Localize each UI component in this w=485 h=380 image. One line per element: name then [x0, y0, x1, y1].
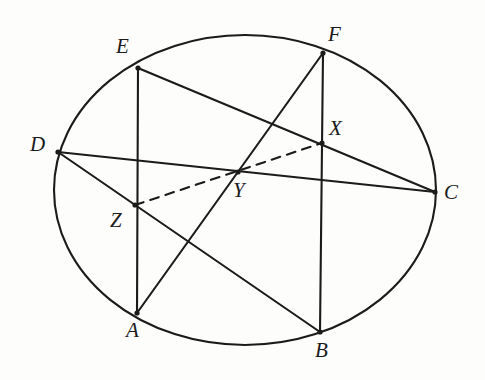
chord-E-C	[138, 68, 435, 192]
geometry-figure-page: ABCDEFXYZ	[0, 0, 485, 380]
vertex-dot-y	[235, 169, 240, 174]
vertex-dot-d	[55, 149, 60, 154]
chord-A-F	[137, 53, 323, 313]
vertex-label-f: F	[328, 24, 341, 45]
circumscribed-ellipse	[54, 35, 436, 345]
vertex-label-y: Y	[233, 180, 245, 201]
vertex-dot-z	[132, 202, 137, 207]
segments-layer	[58, 53, 435, 332]
dashed-line-Z-X	[135, 143, 322, 205]
vertex-label-z: Z	[110, 210, 122, 231]
chord-E-A	[137, 68, 138, 313]
chord-D-C	[58, 152, 435, 192]
vertex-dot-a	[134, 310, 139, 315]
vertex-dot-x	[319, 140, 324, 145]
vertex-dots-layer	[55, 50, 437, 334]
vertex-label-x: X	[329, 118, 342, 139]
vertex-label-b: B	[315, 340, 328, 361]
chord-F-B	[320, 53, 323, 332]
vertex-dot-b	[317, 329, 322, 334]
vertex-label-d: D	[30, 134, 45, 155]
vertex-label-e: E	[116, 36, 129, 57]
vertex-dot-c	[432, 189, 437, 194]
vertex-dot-e	[135, 65, 140, 70]
vertex-label-a: A	[126, 320, 139, 341]
ellipse-layer	[54, 35, 436, 345]
vertex-dot-f	[320, 50, 325, 55]
vertex-label-c: C	[444, 182, 458, 203]
